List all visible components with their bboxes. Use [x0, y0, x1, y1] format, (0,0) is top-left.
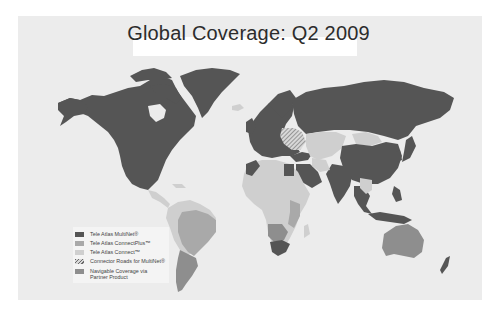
legend-label: Connector Roads for MultiNet®: [90, 258, 165, 264]
region-russia: [292, 80, 454, 140]
region-iceland: [232, 104, 244, 111]
region-central-america: [148, 190, 170, 208]
legend-item-connector-roads: Connector Roads for MultiNet®: [75, 258, 165, 264]
legend-swatch-connectplus: [75, 241, 84, 246]
region-australia: [382, 224, 424, 258]
legend-swatch-multinet: [75, 232, 84, 237]
region-new-zealand: [440, 256, 450, 274]
legend-label: Navigable Coverage via Partner Product: [90, 268, 147, 280]
region-madagascar: [304, 224, 310, 238]
region-indonesia: [368, 212, 412, 224]
legend-item-partner: Navigable Coverage via Partner Product: [75, 268, 147, 280]
legend-swatch-connect: [75, 250, 84, 255]
region-central-asia: [306, 132, 346, 160]
legend-swatch-partner: [75, 269, 84, 274]
region-japan: [402, 136, 416, 162]
legend-item-connectplus: Tele Atlas ConnectPlus™: [75, 240, 151, 246]
region-philippines: [392, 186, 402, 202]
region-egypt: [284, 164, 294, 176]
legend-swatch-hatched: [75, 259, 84, 264]
legend-item-connect: Tele Atlas Connect™: [75, 249, 140, 255]
region-argentina-chile: [176, 250, 198, 292]
legend-label: Tele Atlas ConnectPlus™: [90, 240, 151, 246]
legend-label: Tele Atlas MultiNet®: [90, 231, 138, 237]
legend-item-multinet: Tele Atlas MultiNet®: [75, 231, 138, 237]
legend-label: Tele Atlas Connect™: [90, 249, 140, 255]
